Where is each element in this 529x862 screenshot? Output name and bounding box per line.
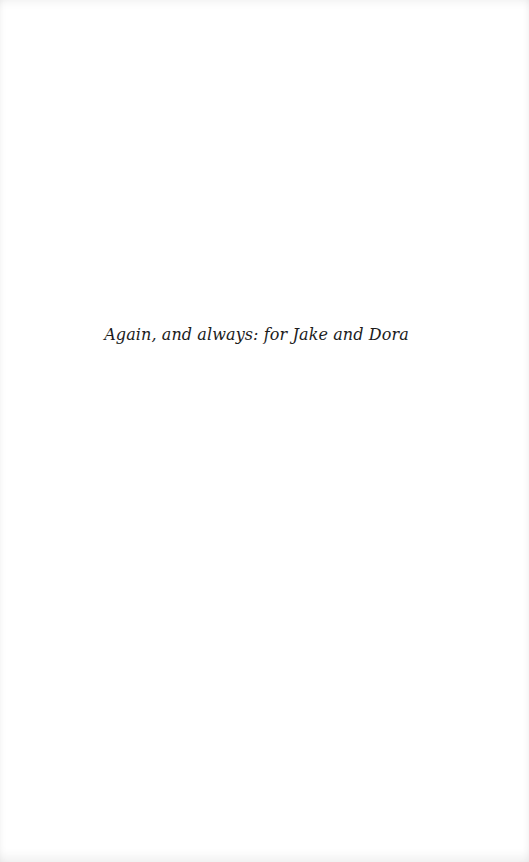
dedication-text: Again, and always: for Jake and Dora [0,324,529,346]
book-page: Again, and always: for Jake and Dora [0,0,529,862]
